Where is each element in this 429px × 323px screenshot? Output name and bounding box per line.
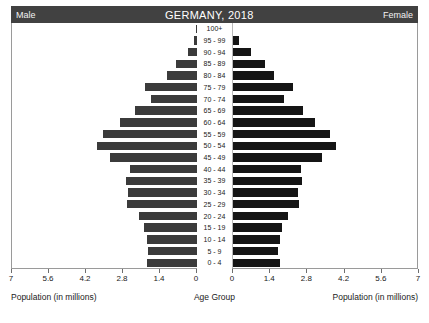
axis-tick [232, 269, 233, 273]
age-group-label: 0 - 4 [207, 259, 221, 266]
female-bar [232, 71, 274, 79]
female-bar [232, 48, 251, 56]
female-bar [232, 177, 302, 185]
population-pyramid-chart: Male GERMANY, 2018 Female 100+95 - 9990 … [0, 0, 429, 323]
age-group-label-cell: 5 - 9 [197, 245, 232, 257]
female-bar [232, 235, 280, 243]
female-half [232, 140, 417, 152]
pyramid-row: 95 - 99 [12, 35, 417, 47]
male-bar [145, 83, 197, 91]
male-half [12, 187, 197, 199]
pyramid-row: 100+ [12, 23, 417, 35]
age-group-label-cell: 65 - 69 [197, 105, 232, 117]
female-half [232, 187, 417, 199]
age-group-label: 30 - 34 [204, 189, 226, 196]
axis-tick-label: 2.8 [116, 274, 127, 283]
male-half [12, 222, 197, 234]
age-group-label: 35 - 39 [204, 177, 226, 184]
age-group-label: 95 - 99 [204, 37, 226, 44]
female-half [232, 35, 417, 47]
female-half [232, 82, 417, 94]
male-half [12, 35, 197, 47]
male-bar [126, 177, 197, 185]
pyramid-row: 50 - 54 [12, 140, 417, 152]
age-group-label-cell: 25 - 29 [197, 199, 232, 211]
axis-tick-label: 7 [416, 274, 420, 283]
right-axis-caption: Population (in millions) [332, 292, 418, 302]
age-group-label: 60 - 64 [204, 119, 226, 126]
female-half [232, 105, 417, 117]
male-half [12, 152, 197, 164]
female-bar [232, 259, 280, 267]
female-bar [232, 188, 298, 196]
male-half [12, 245, 197, 257]
female-legend-label: Female [378, 10, 418, 20]
age-group-label: 85 - 89 [204, 60, 226, 67]
age-group-label: 45 - 49 [204, 154, 226, 161]
male-bar [130, 165, 197, 173]
male-half [12, 93, 197, 105]
male-half [12, 46, 197, 58]
male-half [12, 210, 197, 222]
axis-tick [85, 269, 86, 273]
age-group-label: 70 - 74 [204, 96, 226, 103]
age-group-label-cell: 95 - 99 [197, 35, 232, 47]
female-bar [232, 247, 278, 255]
plot-area: 100+95 - 9990 - 9485 - 8980 - 8475 - 797… [11, 23, 418, 269]
age-group-label: 100+ [207, 25, 223, 32]
age-group-label-cell: 20 - 24 [197, 210, 232, 222]
female-bar [232, 142, 336, 150]
female-half [232, 46, 417, 58]
female-half [232, 210, 417, 222]
axis-tick-label: 5.6 [375, 274, 386, 283]
female-half [232, 245, 417, 257]
axis-tick-label: 2.8 [301, 274, 312, 283]
age-group-label-cell: 30 - 34 [197, 187, 232, 199]
pyramid-row: 55 - 59 [12, 128, 417, 140]
female-bar [232, 118, 315, 126]
male-bar [110, 153, 197, 161]
female-half [232, 93, 417, 105]
female-half [232, 199, 417, 211]
axis-tick-label: 4.2 [338, 274, 349, 283]
pyramid-row: 20 - 24 [12, 210, 417, 222]
female-half [232, 58, 417, 70]
female-bar [232, 60, 265, 68]
female-half [232, 128, 417, 140]
female-bar [232, 223, 282, 231]
male-half [12, 117, 197, 129]
age-group-label-cell: 45 - 49 [197, 152, 232, 164]
female-bar [232, 95, 284, 103]
female-half [232, 23, 417, 35]
bar-rows: 100+95 - 9990 - 9485 - 8980 - 8475 - 797… [12, 23, 417, 268]
male-bar [151, 95, 197, 103]
female-bar [232, 165, 301, 173]
axis-tick-label: 4.2 [79, 274, 90, 283]
pyramid-row: 25 - 29 [12, 199, 417, 211]
age-group-label: 5 - 9 [207, 248, 221, 255]
female-bar [232, 83, 293, 91]
male-bar [135, 106, 197, 114]
age-group-label-cell: 90 - 94 [197, 46, 232, 58]
pyramid-row: 85 - 89 [12, 58, 417, 70]
male-half [12, 105, 197, 117]
age-group-label: 50 - 54 [204, 142, 226, 149]
pyramid-row: 90 - 94 [12, 46, 417, 58]
male-bar [144, 223, 197, 231]
pyramid-row: 80 - 84 [12, 70, 417, 82]
female-half [232, 163, 417, 175]
age-group-label-cell: 80 - 84 [197, 70, 232, 82]
age-group-label-cell: 35 - 39 [197, 175, 232, 187]
age-group-label: 55 - 59 [204, 131, 226, 138]
age-group-label-cell: 50 - 54 [197, 140, 232, 152]
male-half [12, 199, 197, 211]
female-half [232, 234, 417, 246]
male-legend-label: Male [11, 10, 41, 20]
axis-tick [418, 269, 419, 273]
age-group-label: 10 - 14 [204, 236, 226, 243]
axis-tick-label: 7 [9, 274, 13, 283]
axis-tick-label: 1.4 [264, 274, 275, 283]
male-bar [139, 212, 197, 220]
female-half [232, 257, 417, 269]
age-group-label: 40 - 44 [204, 166, 226, 173]
